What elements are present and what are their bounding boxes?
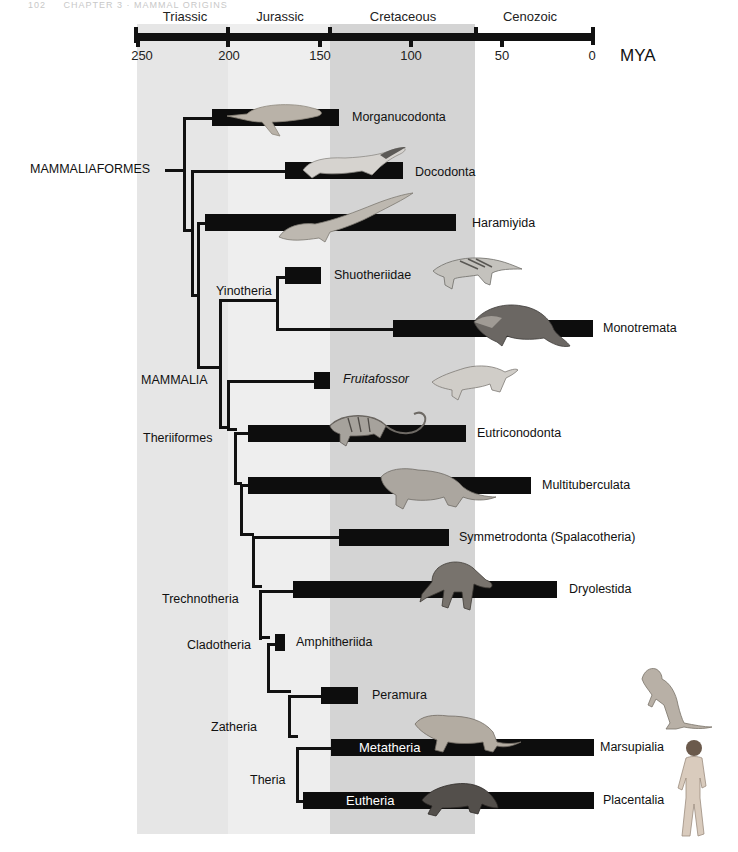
branch	[267, 690, 291, 693]
branch	[234, 432, 249, 435]
branch	[288, 695, 323, 698]
metatherian-icon	[413, 712, 523, 754]
tick-250: 250	[131, 48, 153, 63]
tick-150: 150	[309, 48, 331, 63]
clade-theria: Theria	[250, 773, 285, 787]
branch	[191, 170, 194, 296]
taxon-amphitheriida: Amphitheriida	[296, 635, 372, 649]
branch	[191, 170, 286, 173]
taxon-symmetrodonta: Symmetrodonta (Spalacotheria)	[459, 530, 635, 544]
taxon-placentalia: Placentalia	[603, 793, 664, 807]
branch	[267, 643, 270, 691]
period-cretaceous: Cretaceous	[370, 9, 436, 24]
branch	[165, 169, 185, 172]
branch	[288, 695, 291, 737]
clade-zatheria: Zatheria	[211, 720, 257, 734]
branch	[227, 380, 315, 383]
tick-50: 50	[495, 48, 509, 63]
period-triassic: Triassic	[163, 9, 207, 24]
bar-label-metatheria: Metatheria	[359, 740, 420, 755]
value-tick	[136, 37, 140, 47]
branch	[252, 585, 262, 588]
branch	[296, 747, 332, 750]
value-tick	[226, 37, 230, 47]
branch	[227, 428, 237, 431]
tick-200: 200	[218, 48, 240, 63]
eutriconodont-icon	[328, 408, 436, 450]
branch	[267, 643, 275, 646]
bar-fruitafossor	[314, 372, 330, 389]
branch	[183, 117, 186, 232]
taxon-marsupialia: Marsupialia	[600, 740, 664, 754]
branch	[227, 380, 230, 430]
taxon-dryolestida: Dryolestida	[569, 582, 632, 596]
period-jurassic: Jurassic	[256, 9, 304, 24]
taxon-multituberculata: Multituberculata	[542, 478, 630, 492]
period-cenozoic: Cenozoic	[503, 9, 557, 24]
branch	[288, 735, 298, 738]
taxon-docodonta: Docodonta	[415, 165, 475, 179]
branch	[197, 222, 205, 225]
branch	[259, 590, 294, 593]
value-tick	[318, 37, 322, 47]
branch	[197, 222, 200, 366]
shuotherium-icon	[430, 255, 525, 293]
fruitafossor-icon	[430, 362, 520, 402]
branch	[252, 536, 340, 539]
morganucodon-icon	[222, 100, 327, 140]
docodont-icon	[300, 145, 410, 180]
branch	[240, 484, 243, 536]
dryolestid-icon	[418, 558, 498, 616]
clade-cladotheria: Cladotheria	[187, 638, 251, 652]
bar-label-eutheria: Eutheria	[346, 793, 394, 808]
value-tick	[409, 37, 413, 47]
taxon-eutriconodonta: Eutriconodonta	[477, 426, 561, 440]
tick-100: 100	[400, 48, 422, 63]
bar-shuotheriidae	[285, 267, 321, 284]
haramiyid-icon	[275, 192, 415, 247]
taxon-morganucodonta: Morganucodonta	[352, 110, 446, 124]
platypus-icon	[472, 300, 572, 352]
unit-label: MYA	[620, 46, 656, 66]
branch	[183, 117, 213, 120]
taxon-fruitafossor: Fruitafossor	[343, 372, 409, 386]
boundary-tick	[328, 27, 332, 39]
branch	[219, 299, 277, 302]
taxon-peramura: Peramura	[372, 688, 427, 702]
boundary-tick	[591, 27, 595, 45]
eutherian-icon	[420, 780, 500, 818]
branch	[296, 747, 299, 802]
bar-peramura	[321, 687, 358, 704]
branch	[234, 432, 237, 482]
bar-symmetrodonta	[339, 529, 449, 546]
branch	[219, 299, 222, 426]
branch	[276, 276, 279, 330]
taxon-monotremata: Monotremata	[603, 321, 677, 335]
clade-yinotheria: Yinotheria	[216, 284, 272, 298]
taxon-haramiyida: Haramiyida	[472, 216, 535, 230]
value-tick	[500, 37, 504, 47]
bar-amphitheriida	[275, 634, 285, 651]
kangaroo-icon	[634, 665, 714, 735]
branch	[197, 366, 221, 369]
clade-trechnotheria: Trechnotheria	[162, 592, 239, 606]
human-icon	[670, 738, 720, 840]
page-number: 102	[28, 0, 46, 10]
time-axis	[135, 33, 595, 41]
clade-mammaliaformes: MAMMALIAFORMES	[30, 162, 150, 176]
branch	[259, 636, 270, 639]
tick-0: 0	[588, 48, 595, 63]
taxon-shuotheriidae: Shuotheriidae	[334, 268, 411, 282]
branch	[276, 328, 394, 331]
clade-theriiformes: Theriiformes	[143, 431, 212, 445]
branch	[252, 536, 255, 586]
clade-mammalia: MAMMALIA	[141, 373, 208, 387]
multituberculate-icon	[378, 465, 498, 510]
branch	[259, 590, 262, 640]
boundary-tick	[474, 27, 478, 39]
